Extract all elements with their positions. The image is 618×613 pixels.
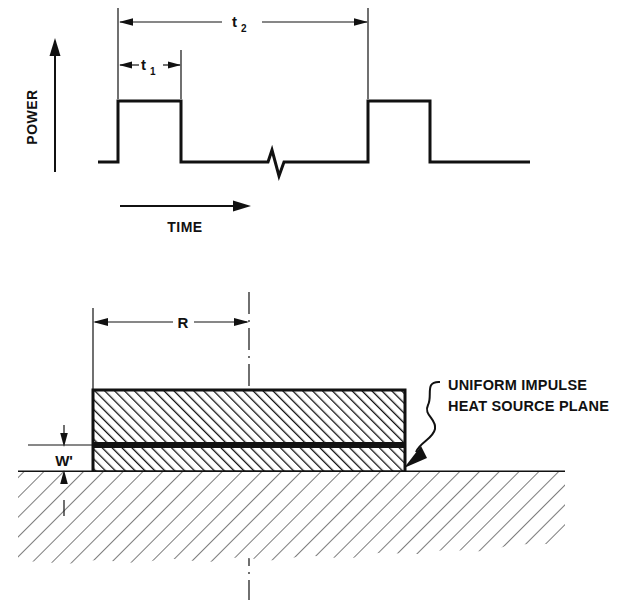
- technical-figure: POWER t 2 t 1: [0, 0, 618, 613]
- annotation-line-two: HEAT SOURCE PLANE: [448, 398, 609, 414]
- dimension-t2-subscript: 2: [241, 23, 247, 34]
- figure-canvas: POWER t 2 t 1: [0, 0, 618, 613]
- dimension-radius-label: R: [178, 314, 189, 331]
- slab-hatch-fill: [93, 390, 405, 472]
- annotation-line-one: UNIFORM IMPULSE: [448, 377, 587, 393]
- dimension-t1-subscript: 1: [150, 66, 156, 77]
- time-axis-label: TIME: [167, 219, 202, 235]
- dimension-t1-symbol: t: [141, 56, 146, 73]
- dimension-w-prime-label: W': [55, 452, 73, 469]
- dimension-t2-symbol: t: [232, 13, 237, 30]
- power-axis-label: POWER: [24, 89, 40, 144]
